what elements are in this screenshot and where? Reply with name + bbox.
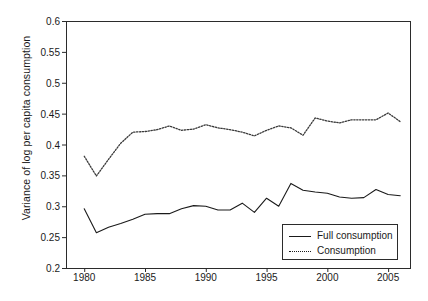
dotted-line-icon [289, 246, 311, 256]
series-line-2 [84, 113, 400, 176]
legend-item: Full consumption [283, 228, 397, 243]
solid-line-icon [289, 231, 311, 241]
legend-item-label: Full consumption [317, 230, 393, 241]
legend-item-label: Consumption [317, 245, 376, 256]
legend-item: Consumption [283, 243, 397, 258]
variance-consumption-line-chart: Variance of log per capita consumption 0… [0, 0, 428, 301]
chart-legend: Full consumptionConsumption [282, 224, 398, 260]
